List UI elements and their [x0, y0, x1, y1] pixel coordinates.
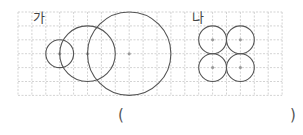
circles: [46, 12, 255, 95]
label-na: 나: [192, 11, 204, 24]
circle-center-dot: [239, 66, 242, 69]
circle-center-dot: [211, 38, 214, 41]
circle-center-dot: [239, 38, 242, 41]
circle-center-dot: [211, 66, 214, 69]
circle-center-dot: [128, 52, 131, 55]
label-ga: 가: [33, 11, 45, 24]
answer-open-paren: (: [118, 108, 124, 123]
answer-close-paren: ): [290, 108, 296, 123]
grid-figure: [0, 0, 303, 135]
